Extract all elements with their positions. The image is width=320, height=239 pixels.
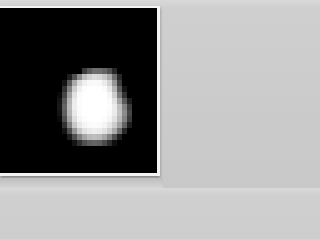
astronomical-image	[0, 8, 157, 173]
image-frame	[0, 6, 160, 176]
bright-object	[42, 56, 142, 152]
page-shadow	[0, 178, 163, 188]
pixel	[137, 146, 142, 152]
